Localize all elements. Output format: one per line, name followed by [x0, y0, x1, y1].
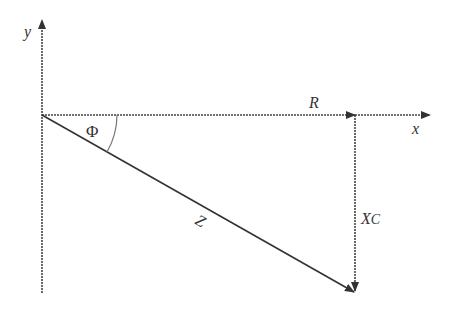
angle-label: Φ	[86, 122, 98, 141]
reactance-subscript: C	[371, 212, 381, 227]
x-axis-label: x	[411, 120, 419, 137]
impedance-vector	[42, 115, 354, 292]
angle-arc	[107, 115, 117, 152]
impedance-triangle-diagram: y x R Φ Z XC	[0, 0, 455, 313]
resistance-label: R	[308, 94, 319, 111]
reactance-label: XC	[360, 210, 381, 227]
y-axis-label: y	[22, 23, 32, 41]
impedance-label: Z	[193, 211, 210, 231]
